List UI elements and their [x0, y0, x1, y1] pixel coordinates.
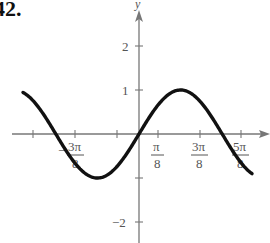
svg-text:8: 8: [154, 156, 161, 171]
svg-text:3π: 3π: [68, 139, 82, 154]
svg-text:8: 8: [196, 156, 203, 171]
x-tick-label-3pi-8: 3π 8: [191, 139, 208, 171]
y-tick-label-neg2: −2: [112, 215, 126, 230]
y-tick-label-2: 2: [122, 39, 129, 54]
y-axis-label: y: [134, 0, 141, 11]
svg-text:π: π: [153, 139, 160, 154]
y-axis: y: [134, 0, 143, 243]
svg-text:3π: 3π: [192, 139, 206, 154]
y-tick-label-1: 1: [122, 83, 129, 98]
x-tick-label-pi-8: π 8: [151, 139, 164, 171]
sine-chart: y 2 1 −2 − 3π 8 π 8 3π 8 5π 8: [0, 0, 270, 243]
